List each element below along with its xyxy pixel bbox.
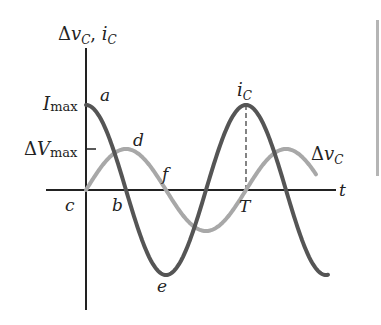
point-label-c: c <box>65 195 75 215</box>
point-label-f: f <box>160 164 171 184</box>
current-curve-label: iC <box>237 79 252 103</box>
point-label-d: d <box>133 130 144 150</box>
waveform-diagram: ΔvC, iC Imax ΔVmax a b c d e f t T iC Δv… <box>0 0 381 325</box>
x-axis-label: t <box>339 180 346 200</box>
period-label: T <box>239 196 252 216</box>
y-axis-label: ΔvC, iC <box>58 23 117 47</box>
voltage-curve-label: ΔvC <box>311 143 343 167</box>
dvmax-label: ΔVmax <box>24 138 78 160</box>
point-label-a: a <box>100 85 110 105</box>
imax-label: Imax <box>42 93 78 114</box>
point-label-b: b <box>112 195 123 215</box>
side-bar <box>376 20 379 176</box>
point-label-e: e <box>157 276 167 296</box>
